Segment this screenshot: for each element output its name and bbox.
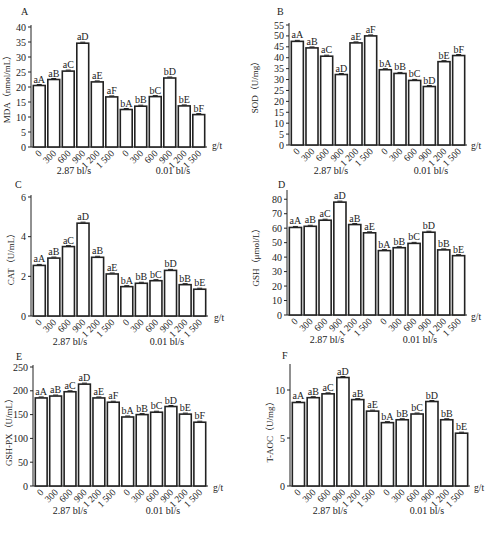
bar bbox=[165, 407, 177, 486]
x-tick-label: 300 bbox=[298, 316, 315, 333]
significance-label: bC bbox=[149, 85, 161, 96]
y-tick-label: 35 bbox=[16, 37, 26, 48]
x-tick-label: 600 bbox=[143, 317, 160, 334]
bar bbox=[62, 71, 74, 147]
bar bbox=[164, 78, 176, 147]
significance-label: aC bbox=[63, 235, 74, 246]
bar bbox=[379, 70, 391, 145]
x-tick-label: 600 bbox=[402, 146, 419, 163]
y-axis-label: T-AOC（U/mg） bbox=[265, 397, 275, 462]
panel-letter: F bbox=[282, 350, 288, 361]
bar bbox=[441, 420, 453, 486]
panel-letter: C bbox=[15, 179, 22, 190]
y-tick-label: 15 bbox=[274, 107, 284, 118]
group-label: 2.87 bl/s bbox=[310, 334, 345, 345]
bar bbox=[179, 414, 191, 486]
y-tick-label: 20 bbox=[272, 281, 282, 292]
significance-label: aB bbox=[306, 36, 317, 47]
bar bbox=[151, 412, 163, 486]
significance-label: bA bbox=[122, 405, 135, 416]
bar bbox=[306, 48, 318, 145]
significance-label: aA bbox=[293, 390, 305, 401]
x-unit-label: g/t bbox=[471, 312, 481, 322]
chart-cat: C0246CAT（U/mL）aA0aB300aC600aD900aB1 200a… bbox=[0, 175, 245, 355]
significance-label: aA bbox=[291, 29, 303, 40]
y-tick-label: 10 bbox=[16, 112, 26, 123]
significance-label: aE bbox=[364, 221, 375, 232]
chart-gsh-px: E050100150200250GSH-PX（U/mL）aA0aB300aC60… bbox=[0, 355, 245, 533]
significance-label: bB bbox=[135, 94, 147, 105]
bar bbox=[106, 274, 118, 316]
y-tick-label: 2 bbox=[21, 271, 26, 282]
x-tick-label: 300 bbox=[390, 487, 407, 504]
bar bbox=[122, 417, 134, 486]
group-label: 0.01 bl/s bbox=[403, 334, 438, 345]
y-tick-label: 40 bbox=[16, 22, 26, 33]
panel-letter: B bbox=[277, 6, 284, 17]
significance-label: aE bbox=[92, 70, 103, 81]
significance-label: bA bbox=[378, 239, 391, 250]
bar bbox=[365, 36, 377, 145]
bar bbox=[194, 289, 206, 316]
bar bbox=[423, 87, 435, 145]
panel-b: B0510152025303540455055SOD（U/mg）aA0aB300… bbox=[245, 0, 491, 178]
bar bbox=[178, 106, 190, 147]
significance-label: bB bbox=[179, 273, 191, 284]
bar bbox=[438, 250, 450, 315]
x-unit-label: g/t bbox=[212, 141, 222, 151]
significance-label: aB bbox=[349, 213, 360, 224]
x-unit-label: g/t bbox=[471, 141, 481, 151]
significance-label: aE bbox=[351, 31, 362, 42]
significance-label: aD bbox=[335, 63, 347, 74]
significance-label: bC bbox=[150, 269, 162, 280]
panel-a: A0510152025303540MDA（nmol/mL）aA0aB300aC6… bbox=[0, 0, 245, 178]
y-tick-label: 0 bbox=[277, 310, 282, 321]
significance-label: bB bbox=[396, 408, 408, 419]
bar bbox=[337, 378, 349, 486]
significance-label: bB bbox=[136, 403, 148, 414]
significance-label: aD bbox=[337, 366, 349, 377]
significance-label: aE bbox=[94, 386, 105, 397]
bar bbox=[352, 400, 364, 486]
y-axis-label: GSH-PX（U/mL） bbox=[4, 394, 14, 466]
bar bbox=[381, 423, 393, 486]
bar bbox=[321, 56, 333, 145]
significance-label: bD bbox=[423, 75, 435, 86]
panel-c: C0246CAT（U/mL）aA0aB300aC600aD900aB1 200a… bbox=[0, 175, 245, 355]
x-tick-label: 600 bbox=[56, 317, 73, 334]
group-label: 0.01 bl/s bbox=[146, 505, 181, 516]
significance-label: bC bbox=[409, 68, 421, 79]
bar bbox=[62, 247, 74, 316]
significance-label: bF bbox=[195, 410, 206, 421]
bar bbox=[50, 396, 62, 486]
bar bbox=[149, 97, 161, 147]
y-tick-label: 20 bbox=[16, 82, 26, 93]
significance-label: bB bbox=[441, 408, 453, 419]
significance-label: aB bbox=[305, 214, 316, 225]
group-label: 0.01 bl/s bbox=[150, 336, 185, 347]
significance-label: bE bbox=[180, 402, 191, 413]
x-tick-label: 300 bbox=[387, 146, 404, 163]
bar bbox=[367, 411, 379, 486]
significance-label: bB bbox=[393, 236, 405, 247]
y-tick-label: 25 bbox=[16, 67, 26, 78]
significance-label: aE bbox=[367, 399, 378, 410]
significance-label: bF bbox=[453, 44, 464, 55]
x-tick-label: 300 bbox=[41, 317, 58, 334]
significance-label: aA bbox=[33, 253, 45, 264]
significance-label: aB bbox=[352, 388, 363, 399]
significance-label: bE bbox=[453, 244, 464, 255]
chart-mda: A0510152025303540MDA（nmol/mL）aA0aB300aC6… bbox=[0, 0, 245, 178]
significance-label: bD bbox=[164, 66, 176, 77]
bar bbox=[136, 415, 148, 486]
bar bbox=[91, 82, 103, 147]
y-tick-label: 0 bbox=[21, 311, 26, 322]
y-tick-label: 0 bbox=[280, 481, 285, 492]
bar bbox=[349, 225, 361, 315]
y-axis-label: CAT（U/mL） bbox=[6, 229, 16, 286]
bar bbox=[77, 223, 89, 316]
y-tick-label: 25 bbox=[274, 85, 284, 96]
y-tick-label: 4 bbox=[21, 231, 26, 242]
y-tick-label: 10 bbox=[275, 385, 285, 396]
significance-label: bB bbox=[394, 61, 406, 72]
